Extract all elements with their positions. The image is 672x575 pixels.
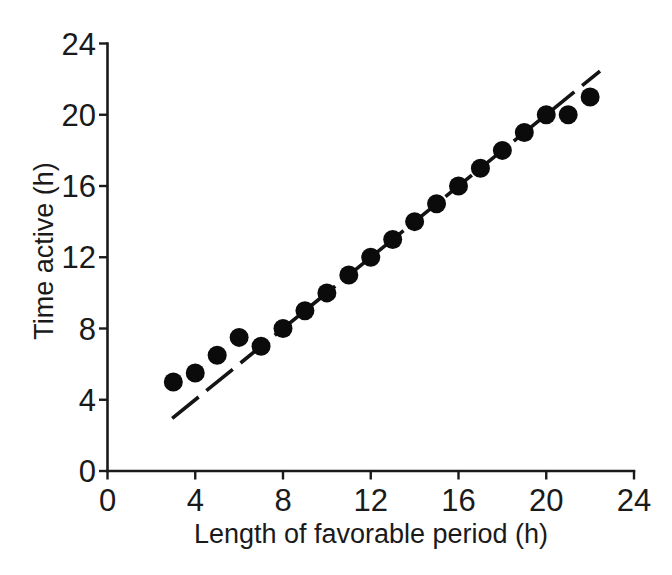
y-tick-label: 24: [62, 27, 96, 62]
data-point: [339, 266, 358, 285]
data-point: [537, 105, 556, 124]
data-point: [581, 87, 600, 106]
y-tick-label: 4: [79, 383, 96, 418]
chart-canvas: 0481216202404812162024: [0, 0, 672, 575]
data-point: [515, 123, 534, 142]
y-tick-label: 20: [62, 98, 96, 133]
y-tick-label: 0: [79, 454, 96, 489]
x-axis-title: Length of favorable period (h): [121, 519, 621, 549]
x-tick-label: 0: [99, 483, 116, 518]
x-tick-label: 16: [441, 483, 475, 518]
data-point: [295, 301, 314, 320]
data-point: [252, 337, 271, 356]
data-point: [361, 248, 380, 267]
y-tick-label: 12: [62, 240, 96, 275]
data-point: [164, 372, 183, 391]
x-tick-label: 20: [529, 483, 563, 518]
activity-scatter-figure: 0481216202404812162024 Time active (h) L…: [0, 0, 672, 575]
data-point: [493, 141, 512, 160]
x-tick-label: 8: [274, 483, 291, 518]
x-tick-label: 24: [617, 483, 651, 518]
data-point: [471, 159, 490, 178]
data-point: [427, 194, 446, 213]
data-point: [186, 364, 205, 383]
x-tick-label: 4: [187, 483, 204, 518]
data-point: [449, 177, 468, 196]
data-point: [383, 230, 402, 249]
y-axis-title: Time active (h): [28, 36, 60, 466]
data-point: [317, 283, 336, 302]
y-tick-label: 8: [79, 312, 96, 347]
data-point: [230, 328, 249, 347]
data-point: [208, 346, 227, 365]
y-tick-label: 16: [62, 169, 96, 204]
data-point: [405, 212, 424, 231]
x-tick-label: 12: [354, 483, 388, 518]
data-point: [559, 105, 578, 124]
data-point: [274, 319, 293, 338]
